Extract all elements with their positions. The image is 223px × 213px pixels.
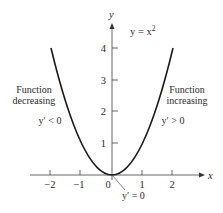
vertex-annotation: y′ = 0	[122, 190, 145, 201]
x-tick-label: −2	[44, 179, 55, 190]
y-axis-label: y	[108, 9, 114, 20]
x-tick-label: −1	[73, 179, 84, 190]
y-tick-label: 1	[101, 138, 106, 149]
y-axis-arrow-icon	[110, 23, 115, 29]
right-annotation-line1: Function	[169, 84, 205, 95]
right-annotation-line2: increasing	[166, 95, 207, 106]
x-axis-label: x	[207, 170, 213, 181]
x-tick-label: 0	[105, 179, 110, 190]
y-ticks	[112, 48, 118, 143]
x-axis-arrow-icon	[199, 173, 205, 178]
y-tick-label: 2	[101, 106, 106, 117]
right-derivative-label: y′ > 0	[162, 115, 185, 126]
left-derivative-label: y′ < 0	[39, 115, 62, 126]
left-annotation-line1: Function	[16, 84, 52, 95]
y-tick-label: 3	[101, 75, 106, 86]
x-tick-label: 1	[139, 179, 144, 190]
y-tick-label: 4	[101, 43, 107, 54]
left-annotation-line2: decreasing	[13, 95, 56, 106]
vertex-leader-line	[113, 176, 125, 190]
x-tick-label: 2	[169, 179, 174, 190]
function-graph: −2 −1 0 1 2 4 3 2 1 x y y = x2 Function …	[0, 0, 223, 213]
function-label: y = x2	[130, 24, 156, 37]
